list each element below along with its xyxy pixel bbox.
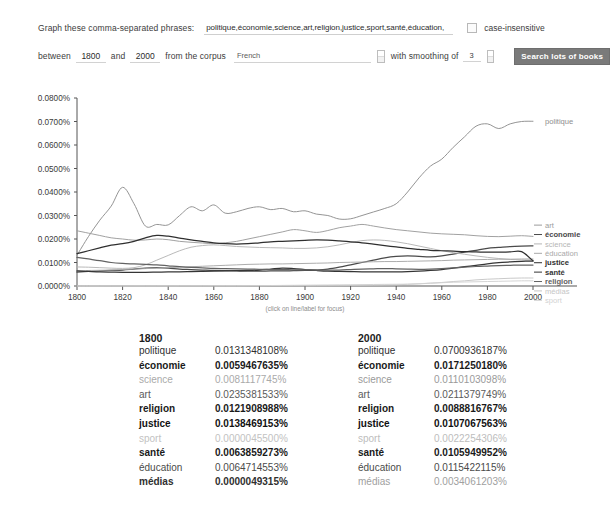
y-tick-label: 0.0300% (38, 212, 70, 221)
smoothing-spinner-icon[interactable] (487, 50, 495, 63)
legend-label-justice[interactable]: justice (544, 258, 569, 267)
table-body-1800: politique0.0131348108%économie0.00594676… (139, 345, 349, 491)
table-cell-value: 0.0034061203% (434, 476, 507, 487)
table-cell-term: religion (358, 403, 434, 414)
table-cell-term: médias (139, 476, 215, 487)
y-tick-label: 0.0100% (38, 259, 70, 268)
table-row[interactable]: éducation0.0064714553% (139, 462, 349, 477)
table-cell-value: 0.0059467635% (215, 360, 288, 371)
legend-label-art[interactable]: art (545, 221, 555, 230)
table-cell-term: justice (139, 418, 215, 429)
case-insensitive-checkbox[interactable] (467, 23, 477, 33)
legend-label-science[interactable]: science (545, 240, 571, 249)
table-cell-value: 0.0088816767% (434, 403, 507, 414)
x-tick-label: 1820 (113, 293, 132, 302)
value-tables: 1800 politique0.0131348108%économie0.005… (0, 332, 610, 491)
table-cell-value: 0.0110103098% (434, 374, 506, 385)
table-cell-value: 0.0105949952% (434, 447, 507, 458)
y-tick-label: 0.0700% (38, 118, 70, 127)
case-insensitive-label: case-insensitive (484, 23, 544, 33)
corpus-label: from the corpus (165, 51, 226, 61)
table-cell-term: politique (358, 345, 434, 356)
year-start-input[interactable] (76, 50, 106, 63)
table-row[interactable]: politique0.0131348108% (139, 345, 349, 360)
table-cell-term: éducation (139, 462, 215, 473)
value-table-2000: 2000 politique0.0700936187%économie0.017… (358, 332, 588, 491)
legend-label-sant[interactable]: santé (545, 268, 565, 277)
corpus-selected-value: French (234, 51, 260, 60)
table-cell-value: 0.0115422115% (434, 462, 505, 473)
corpus-spinner-icon[interactable] (377, 50, 385, 63)
x-tick-label: 1960 (433, 293, 452, 302)
smoothing-label: with smoothing of (391, 51, 459, 61)
year-end-input[interactable] (130, 50, 160, 63)
legend-label-mdias[interactable]: médias (545, 287, 570, 296)
legend-label-sport[interactable]: sport (545, 296, 563, 305)
table-row[interactable]: religion0.0088816767% (358, 403, 588, 418)
ngram-chart[interactable]: 0.0000%0.0100%0.0200%0.0300%0.0400%0.050… (0, 84, 610, 324)
table-year-heading: 2000 (358, 332, 588, 344)
x-tick-label: 1800 (68, 293, 87, 302)
table-row[interactable]: sport0.0000045500% (139, 433, 349, 448)
table-cell-value: 0.0171250180% (434, 360, 507, 371)
table-cell-value: 0.0138469153% (215, 418, 288, 429)
table-row[interactable]: politique0.0700936187% (358, 345, 588, 360)
x-tick-label: 1900 (296, 293, 315, 302)
legend-label-conomie[interactable]: économie (545, 230, 580, 239)
x-tick-label: 1840 (159, 293, 178, 302)
table-cell-value: 0.0700936187% (434, 345, 507, 356)
phrases-input[interactable] (204, 22, 453, 35)
table-row[interactable]: éducation0.0115422115% (358, 462, 588, 477)
x-tick-label: 1880 (250, 293, 269, 302)
table-cell-term: religion (139, 403, 215, 414)
table-row[interactable]: science0.0110103098% (358, 374, 588, 389)
search-button[interactable]: Search lots of books (514, 48, 610, 65)
table-row[interactable]: sport0.0022254306% (358, 433, 588, 448)
options-row: between and from the corpus French with … (38, 46, 610, 66)
table-cell-term: économie (139, 360, 215, 371)
table-cell-value: 0.0121908988% (215, 403, 288, 414)
chart-canvas[interactable]: 0.0000%0.0100%0.0200%0.0300%0.0400%0.050… (0, 84, 610, 324)
table-cell-value: 0.0081117745% (215, 374, 286, 385)
table-row[interactable]: santé0.0105949952% (358, 447, 588, 462)
table-cell-term: politique (139, 345, 215, 356)
table-cell-term: art (358, 389, 434, 400)
table-row[interactable]: art0.0235381533% (139, 389, 349, 404)
y-tick-label: 0.0800% (38, 94, 70, 103)
x-tick-label: 1920 (341, 293, 360, 302)
table-row[interactable]: justice0.0107067563% (358, 418, 588, 433)
legend-label-politique[interactable]: politique (545, 117, 573, 126)
y-tick-label: 0.0600% (38, 141, 70, 150)
table-cell-term: science (358, 374, 434, 385)
y-tick-label: 0.0000% (38, 282, 70, 291)
chart-line-sport[interactable] (77, 281, 533, 286)
table-cell-value: 0.0235381533% (215, 389, 288, 400)
table-row[interactable]: religion0.0121908988% (139, 403, 349, 418)
table-row[interactable]: médias0.0000049315% (139, 476, 349, 491)
table-cell-term: justice (358, 418, 434, 429)
x-tick-label: 1940 (387, 293, 406, 302)
corpus-select[interactable]: French (234, 49, 371, 63)
table-cell-value: 0.0131348108% (215, 345, 288, 356)
table-cell-term: médias (358, 476, 434, 487)
legend-label-religion[interactable]: religion (545, 277, 573, 286)
table-row[interactable]: science0.0081117745% (139, 374, 349, 389)
value-table-1800: 1800 politique0.0131348108%économie0.005… (139, 332, 349, 491)
table-cell-term: sport (358, 433, 434, 444)
legend-label-ducation[interactable]: éducation (545, 249, 578, 258)
table-row[interactable]: santé0.0063859273% (139, 447, 349, 462)
y-tick-label: 0.0400% (38, 188, 70, 197)
table-cell-term: économie (358, 360, 434, 371)
and-label: and (111, 51, 125, 61)
table-row[interactable]: médias0.0034061203% (358, 476, 588, 491)
table-cell-term: santé (139, 447, 215, 458)
table-row[interactable]: économie0.0059467635% (139, 360, 349, 375)
table-cell-term: éducation (358, 462, 434, 473)
table-row[interactable]: art0.0211379749% (358, 389, 588, 404)
table-cell-value: 0.0107067563% (434, 418, 507, 429)
table-row[interactable]: économie0.0171250180% (358, 360, 588, 375)
smoothing-input[interactable] (463, 50, 481, 62)
table-row[interactable]: justice0.0138469153% (139, 418, 349, 433)
x-tick-label: 1860 (205, 293, 224, 302)
x-tick-label: 1980 (478, 293, 497, 302)
